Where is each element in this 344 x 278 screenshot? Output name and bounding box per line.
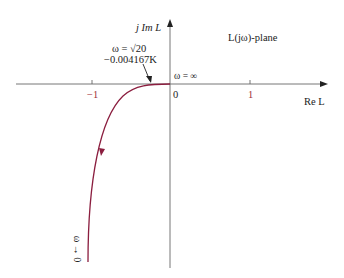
nyquist-curve: [88, 84, 170, 262]
plane-title: L(jω)-plane: [228, 33, 277, 44]
x-axis-label: Re L: [304, 97, 325, 108]
direction-arrow-icon: [99, 148, 105, 156]
tick-label-0: 0: [173, 90, 178, 101]
start-annotation: ω → 0: [72, 236, 82, 263]
crossing-annotation-line1: ω = √20: [112, 44, 146, 55]
y-axis-label: j Im L: [136, 23, 161, 34]
origin-annotation: ω = ∞: [174, 72, 197, 82]
real-axis-arrow-icon: [320, 81, 328, 87]
nyquist-plot: [0, 0, 344, 278]
crossing-annotation-line2: −0.004167K: [104, 55, 157, 66]
tick-label-plus-1: 1: [248, 90, 253, 101]
tick-label-minus-1: −1: [87, 90, 98, 101]
annotation-arrow-icon: [146, 76, 152, 83]
imag-axis-arrow-icon: [167, 19, 173, 27]
